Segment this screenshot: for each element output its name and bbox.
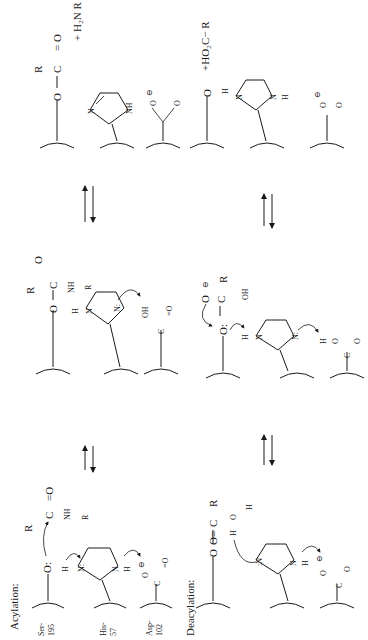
residue-his: His- [99, 622, 108, 636]
state-deacyl-3: O H +HO₂C− R N N H O ⊖ O [190, 21, 344, 148]
svg-text:R: R [84, 284, 93, 290]
svg-text:N:: N: [113, 304, 122, 312]
svg-text:N: N [85, 308, 94, 314]
svg-text:C: C [343, 353, 352, 358]
svg-text:C: C [215, 296, 227, 303]
svg-text:C: C [153, 581, 162, 586]
svg-text:H: H [61, 566, 70, 572]
section-label-deacylation: Deacylation: [184, 580, 196, 636]
svg-text:O: O [51, 93, 63, 101]
svg-text:H: H [71, 308, 80, 314]
svg-text:C: C [207, 520, 219, 527]
equilibrium-arrow-deacyl-2-3 [264, 435, 272, 465]
state-deacyl-2: O: C O ⊖ R OH H N N: H O C O [199, 275, 364, 378]
svg-text:N:: N: [291, 332, 300, 340]
svg-text:C: C [47, 282, 59, 289]
state-acyl-1: O: H C R =O NH R N: N H O ⊖ C =O Acylati… [8, 487, 172, 636]
svg-text:O: O [207, 549, 219, 557]
svg-text:O:: O: [217, 324, 229, 335]
svg-text:NH: NH [63, 508, 72, 520]
svg-text:O: O [331, 338, 340, 344]
svg-text:C: C [43, 512, 55, 519]
svg-text:O: O [47, 305, 59, 313]
svg-text:+ H₂N R: + H₂N R [71, 2, 83, 41]
svg-text:⊖: ⊖ [315, 555, 324, 562]
svg-text:R: R [32, 65, 44, 73]
svg-text:=O: =O [165, 305, 174, 316]
svg-text:N: N [269, 94, 278, 100]
svg-text:N:: N: [77, 564, 86, 572]
svg-text:102: 102 [155, 624, 164, 636]
svg-text:57: 57 [109, 628, 118, 636]
residue-asp: Asp- [145, 620, 154, 636]
svg-text:O: O [149, 100, 158, 106]
equilibrium-arrow-deacyl-1-2 [264, 194, 272, 228]
equilibrium-arrow-acyl-1-2 [85, 186, 93, 222]
svg-text:R: R [24, 286, 36, 294]
state-deacyl-1: O C O= R H O H :N N H O ⊖ C O Deacylatio… [184, 499, 354, 636]
svg-text:O: O [141, 572, 150, 578]
svg-text:H: H [245, 504, 254, 510]
section-label-acylation: Acylation: [8, 584, 20, 630]
svg-text:OH: OH [241, 288, 250, 300]
svg-text:H: H [221, 88, 230, 94]
svg-text:=O: =O [43, 487, 55, 501]
svg-text:O: O [199, 295, 211, 303]
svg-text:H: H [281, 94, 290, 100]
svg-text:O: O [319, 570, 328, 576]
svg-text:=O: =O [161, 557, 170, 568]
svg-text:⊖: ⊖ [313, 91, 322, 98]
svg-text:H: H [123, 566, 132, 572]
svg-text:O: O [353, 338, 362, 344]
svg-text:N: N [255, 334, 264, 340]
svg-text:OH: OH [141, 306, 150, 318]
svg-text:O: O [335, 102, 344, 108]
svg-text:H: H [241, 334, 250, 340]
svg-text:= O: = O [51, 34, 63, 51]
svg-text:195: 195 [47, 624, 56, 636]
residue-ser: Ser- [37, 622, 46, 636]
svg-text:NH: NH [67, 281, 76, 293]
svg-text:O: O [32, 256, 44, 264]
svg-text:H: H [229, 530, 238, 536]
svg-text:⊖: ⊖ [137, 561, 146, 568]
mechanism-diagram: O C R = O + H₂N R N NH O ⊖ O O C R O NH … [0, 0, 368, 640]
svg-text:O: O [319, 102, 328, 108]
state-acyl-2: O C R O NH R H N N: OH C =O [24, 256, 178, 374]
svg-text:N: N [111, 566, 120, 572]
svg-text::N: :N [255, 558, 264, 566]
svg-text:C: C [157, 329, 166, 334]
svg-text:C: C [51, 66, 63, 73]
svg-text:⊖: ⊖ [145, 89, 154, 96]
state-acyl-3: O C R = O + H₂N R N NH O ⊖ O [32, 2, 182, 148]
svg-text:NH: NH [125, 102, 134, 114]
svg-text:O:: O: [41, 562, 53, 573]
svg-text:H: H [301, 560, 310, 566]
svg-text:O: O [173, 100, 182, 106]
svg-text:O: O [343, 566, 352, 572]
svg-text:H: H [319, 338, 328, 344]
svg-text:R: R [22, 524, 34, 532]
svg-text:R: R [207, 499, 219, 507]
svg-text:N: N [87, 108, 96, 114]
svg-text:O: O [201, 89, 213, 97]
equilibrium-arrow-acyl-2-3 [85, 446, 93, 472]
svg-text:⊖: ⊖ [201, 281, 210, 288]
svg-text:N: N [235, 94, 244, 100]
svg-text:C: C [335, 583, 344, 588]
svg-text:R: R [217, 275, 229, 283]
svg-text:R: R [81, 514, 90, 520]
svg-text:O: O [229, 514, 238, 520]
svg-text:O=: O= [207, 531, 219, 545]
svg-text:+HO₂C− R: +HO₂C− R [199, 21, 211, 71]
svg-text:N: N [289, 560, 298, 566]
